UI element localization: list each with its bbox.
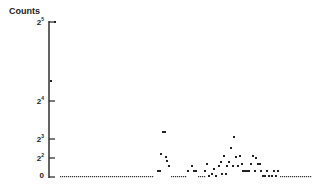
zero-point bbox=[294, 176, 295, 177]
data-point bbox=[206, 163, 208, 165]
zero-point bbox=[88, 176, 89, 177]
zero-point bbox=[204, 176, 205, 177]
data-point bbox=[254, 170, 256, 172]
zero-point bbox=[108, 176, 109, 177]
zero-point bbox=[116, 176, 117, 177]
counts-dot-plot: Counts 022232425 bbox=[0, 0, 324, 189]
data-point bbox=[215, 175, 217, 177]
zero-point bbox=[179, 176, 180, 177]
data-point bbox=[250, 163, 252, 165]
zero-point bbox=[310, 176, 311, 177]
zero-point bbox=[200, 176, 201, 177]
data-point bbox=[271, 175, 273, 177]
data-point bbox=[204, 170, 206, 172]
data-point bbox=[262, 175, 264, 177]
data-point bbox=[266, 170, 268, 172]
data-point bbox=[246, 170, 248, 172]
data-point bbox=[191, 165, 193, 167]
zero-point bbox=[290, 176, 291, 177]
zero-point bbox=[298, 176, 299, 177]
data-point bbox=[195, 170, 197, 172]
data-point bbox=[255, 157, 257, 159]
data-points bbox=[50, 21, 311, 177]
data-point bbox=[259, 163, 261, 165]
data-point bbox=[164, 131, 166, 133]
data-point bbox=[260, 170, 262, 172]
zero-point bbox=[114, 176, 115, 177]
data-point bbox=[235, 156, 237, 158]
zero-point bbox=[94, 176, 95, 177]
data-point bbox=[218, 165, 220, 167]
zero-point bbox=[148, 176, 149, 177]
zero-point bbox=[138, 176, 139, 177]
zero-point bbox=[286, 176, 287, 177]
zero-point bbox=[140, 176, 141, 177]
data-point bbox=[257, 163, 259, 165]
zero-point bbox=[102, 176, 103, 177]
data-point bbox=[264, 175, 266, 177]
data-point bbox=[220, 161, 222, 163]
zero-point bbox=[181, 176, 182, 177]
data-point bbox=[162, 131, 164, 133]
data-point bbox=[237, 165, 239, 167]
zero-point bbox=[124, 176, 125, 177]
zero-point bbox=[130, 176, 131, 177]
zero-point bbox=[104, 176, 105, 177]
data-point bbox=[277, 170, 279, 172]
zero-point bbox=[142, 176, 143, 177]
zero-point bbox=[136, 176, 137, 177]
zero-point bbox=[92, 176, 93, 177]
data-point bbox=[239, 155, 241, 157]
zero-point bbox=[72, 176, 73, 177]
zero-point bbox=[120, 176, 121, 177]
zero-point bbox=[118, 176, 119, 177]
zero-point bbox=[86, 176, 87, 177]
data-point bbox=[166, 160, 168, 162]
data-point bbox=[208, 175, 210, 177]
zero-point bbox=[308, 176, 309, 177]
zero-point bbox=[66, 176, 67, 177]
zero-point bbox=[80, 176, 81, 177]
zero-point bbox=[76, 176, 77, 177]
zero-point bbox=[296, 176, 297, 177]
data-point bbox=[228, 161, 230, 163]
data-point bbox=[230, 147, 232, 149]
zero-point bbox=[280, 176, 281, 177]
zero-point bbox=[110, 176, 111, 177]
data-point bbox=[193, 170, 195, 172]
zero-point bbox=[84, 176, 85, 177]
zero-point bbox=[300, 176, 301, 177]
zero-point bbox=[100, 176, 101, 177]
zero-point bbox=[134, 176, 135, 177]
zero-point bbox=[70, 176, 71, 177]
data-point bbox=[221, 173, 223, 175]
zero-point bbox=[60, 176, 61, 177]
zero-point bbox=[78, 176, 79, 177]
zero-point bbox=[122, 176, 123, 177]
zero-point bbox=[171, 176, 172, 177]
data-point bbox=[225, 173, 227, 175]
zero-point bbox=[74, 176, 75, 177]
data-point bbox=[213, 168, 215, 170]
data-point bbox=[226, 165, 228, 167]
data-point bbox=[248, 170, 250, 172]
zero-point bbox=[150, 176, 151, 177]
data-point bbox=[168, 165, 170, 167]
data-point bbox=[157, 170, 159, 172]
zero-point bbox=[306, 176, 307, 177]
zero-point bbox=[82, 176, 83, 177]
plot-area bbox=[0, 0, 324, 189]
data-point bbox=[187, 170, 189, 172]
zero-point bbox=[68, 176, 69, 177]
data-point bbox=[223, 155, 225, 157]
zero-point bbox=[292, 176, 293, 177]
data-point bbox=[165, 156, 167, 158]
zero-point bbox=[128, 176, 129, 177]
zero-point bbox=[98, 176, 99, 177]
zero-point bbox=[284, 176, 285, 177]
zero-point bbox=[90, 176, 91, 177]
zero-point bbox=[202, 176, 203, 177]
data-point bbox=[268, 175, 270, 177]
zero-point bbox=[132, 176, 133, 177]
zero-point bbox=[96, 176, 97, 177]
